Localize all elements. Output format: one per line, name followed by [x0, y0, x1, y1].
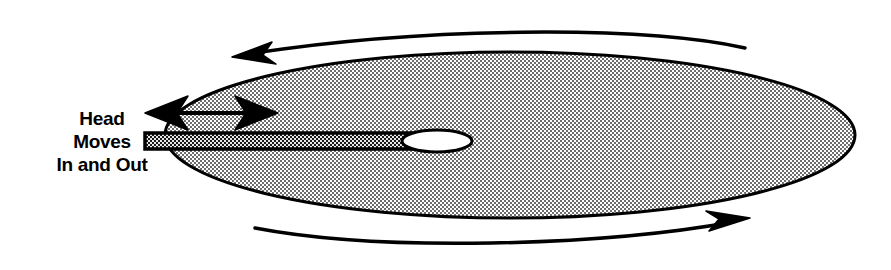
actuator-arm — [145, 133, 428, 149]
head-motion-label: Head Moves In and Out — [48, 107, 156, 176]
disk-head-diagram: Head Moves In and Out — [0, 0, 891, 270]
label-line-3: In and Out — [48, 153, 156, 176]
label-line-2: Moves — [48, 130, 156, 153]
read-write-head — [402, 130, 472, 152]
label-line-1: Head — [48, 107, 156, 130]
